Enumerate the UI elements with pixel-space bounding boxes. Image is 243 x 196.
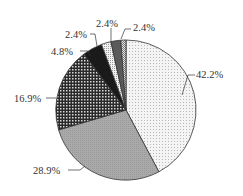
pie-chart: 42.2% 28.9% 16.9% 4.8% 2.4% 2.4% 2.4% — [0, 0, 243, 196]
label-2-4-c: 2.4% — [133, 22, 155, 33]
label-2-4-b: 2.4% — [96, 18, 118, 29]
label-2-4-a: 2.4% — [65, 29, 87, 40]
label-28-9: 28.9% — [33, 165, 60, 176]
pie-slices — [56, 40, 196, 180]
label-4-8: 4.8% — [51, 46, 73, 57]
label-42-2: 42.2% — [196, 69, 223, 80]
label-16-9: 16.9% — [14, 93, 41, 104]
